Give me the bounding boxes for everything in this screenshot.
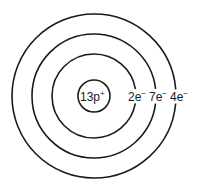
shell-1-label: 2e−: [128, 89, 146, 104]
shell-3-label: 4e−: [170, 89, 188, 104]
bohr-diagram: 13p+ 2e− 7e− 4e−: [0, 0, 206, 189]
shell-2-label: 7e−: [149, 89, 167, 104]
nucleus-label: 13p+: [80, 89, 105, 104]
